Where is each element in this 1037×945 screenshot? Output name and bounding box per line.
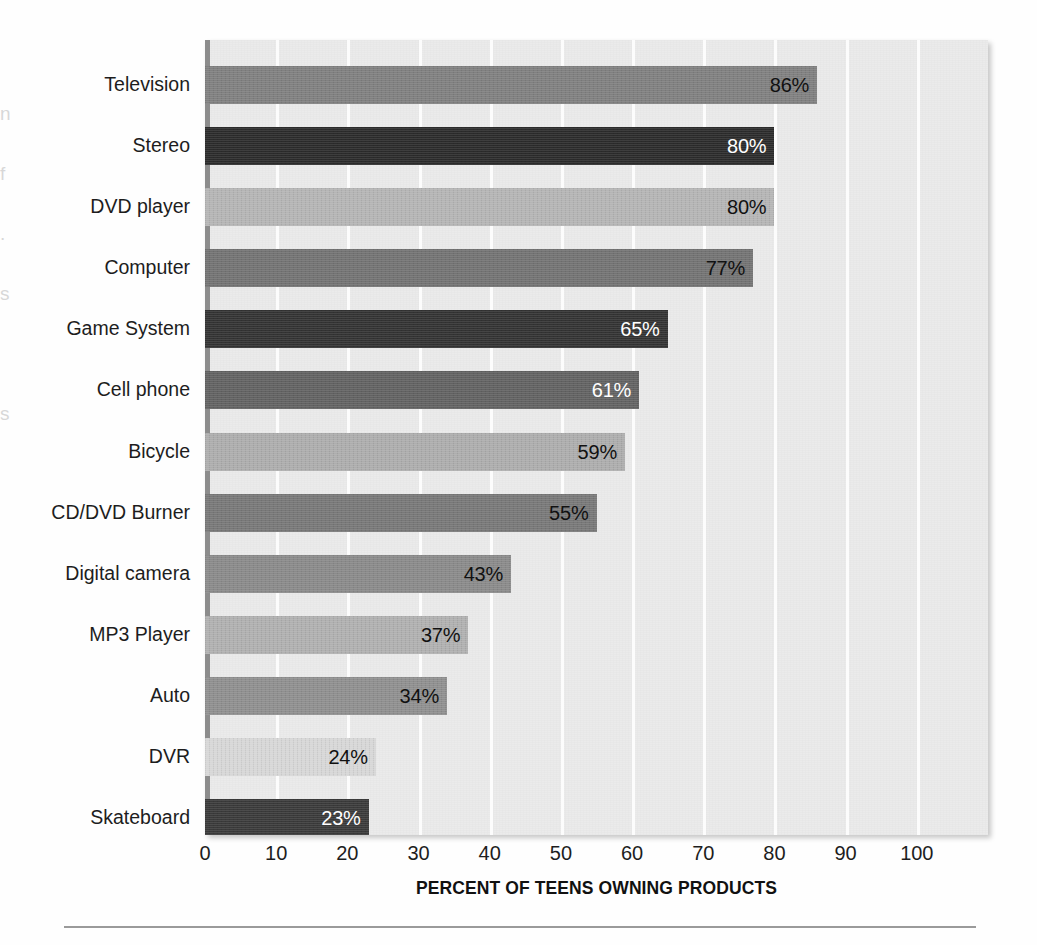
figure-page: n f . s s TelevisionStereoDVD playerComp… xyxy=(0,0,1037,945)
bar xyxy=(205,310,668,348)
bar-value-label: 77% xyxy=(706,257,745,280)
bar xyxy=(205,188,774,226)
x-axis-tick-label: 10 xyxy=(265,843,287,863)
bar xyxy=(205,66,817,104)
bar-row: 65% xyxy=(205,310,988,348)
x-axis-tick-label: 80 xyxy=(763,843,785,863)
y-axis-category-labels: TelevisionStereoDVD playerComputerGame S… xyxy=(20,40,198,835)
bar-row: 24% xyxy=(205,738,988,776)
page-horizontal-rule xyxy=(64,926,976,928)
bar-row: 86% xyxy=(205,66,988,104)
y-axis-label: Cell phone xyxy=(12,380,190,400)
bar-value-label: 80% xyxy=(727,195,766,218)
bar-row: 80% xyxy=(205,127,988,165)
bar-value-label: 61% xyxy=(592,379,631,402)
y-axis-label: Skateboard xyxy=(12,808,190,828)
bar-chart: TelevisionStereoDVD playerComputerGame S… xyxy=(0,0,1037,945)
plot-area: 86%80%80%77%65%61%59%55%43%37%34%24%23% xyxy=(205,40,988,835)
x-axis-tick-label: 30 xyxy=(407,843,429,863)
bar-texture xyxy=(205,188,774,226)
y-axis-label: Television xyxy=(12,75,190,95)
x-axis-tick-labels: 0102030405060708090100 xyxy=(205,843,1035,871)
bar-value-label: 34% xyxy=(400,685,439,708)
x-axis-tick-label: 100 xyxy=(900,843,933,863)
bar-row: 37% xyxy=(205,616,988,654)
x-axis-tick-label: 90 xyxy=(835,843,857,863)
bar xyxy=(205,127,774,165)
bar-value-label: 80% xyxy=(727,134,766,157)
x-axis-tick-label: 20 xyxy=(336,843,358,863)
bar-value-label: 43% xyxy=(464,562,503,585)
y-axis-label: Auto xyxy=(12,686,190,706)
bar xyxy=(205,494,597,532)
y-axis-label: Stereo xyxy=(12,136,190,156)
x-axis-tick-label: 60 xyxy=(621,843,643,863)
bar-row: 61% xyxy=(205,371,988,409)
bar xyxy=(205,249,753,287)
y-axis-label: Game System xyxy=(12,319,190,339)
bar-row: 77% xyxy=(205,249,988,287)
bar-value-label: 65% xyxy=(620,318,659,341)
x-axis-title: PERCENT OF TEENS OWNING PRODUCTS xyxy=(205,878,988,899)
bar-value-label: 55% xyxy=(549,501,588,524)
y-axis-label: MP3 Player xyxy=(12,625,190,645)
bar-value-label: 24% xyxy=(328,746,367,769)
y-axis-label: CD/DVD Burner xyxy=(12,503,190,523)
x-axis-tick-label: 50 xyxy=(550,843,572,863)
y-axis-label: Bicycle xyxy=(12,442,190,462)
bar-row: 34% xyxy=(205,677,988,715)
bar-texture xyxy=(205,433,625,471)
bar-value-label: 23% xyxy=(321,807,360,830)
y-axis-label: Digital camera xyxy=(12,564,190,584)
bar-row: 59% xyxy=(205,433,988,471)
bar-texture xyxy=(205,310,668,348)
bar-texture xyxy=(205,494,597,532)
bar-row: 55% xyxy=(205,494,988,532)
bar-texture xyxy=(205,66,817,104)
y-axis-label: Computer xyxy=(12,258,190,278)
bar xyxy=(205,433,625,471)
bar-value-label: 37% xyxy=(421,623,460,646)
bar-texture xyxy=(205,127,774,165)
x-axis-tick-label: 40 xyxy=(479,843,501,863)
bar-texture xyxy=(205,371,639,409)
x-axis-tick-label: 0 xyxy=(199,843,210,863)
bar-value-label: 86% xyxy=(770,73,809,96)
bar xyxy=(205,371,639,409)
x-axis-tick-label: 70 xyxy=(692,843,714,863)
y-axis-label: DVR xyxy=(12,747,190,767)
bar-value-label: 59% xyxy=(578,440,617,463)
y-axis-label: DVD player xyxy=(12,197,190,217)
bar-row: 80% xyxy=(205,188,988,226)
bar-row: 43% xyxy=(205,555,988,593)
bar-texture xyxy=(205,249,753,287)
bar-row: 23% xyxy=(205,799,988,835)
